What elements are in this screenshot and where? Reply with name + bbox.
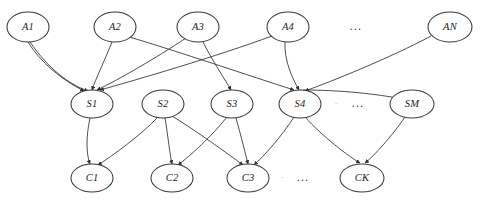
node-ck[interactable]: CK (340, 164, 384, 192)
node-label-an: AN (442, 21, 458, 32)
node-label-s2: S2 (158, 98, 169, 109)
edge-s2-to-c3 (172, 116, 243, 165)
node-s2[interactable]: S2 (142, 90, 184, 118)
edge-s1-to-c1 (87, 118, 90, 164)
edge-a2-to-s4 (126, 36, 294, 90)
edge-s2-to-c1 (98, 117, 158, 165)
node-label-a4: A4 (281, 21, 295, 32)
node-s4[interactable]: S4 (279, 90, 321, 118)
node-c2[interactable]: C2 (151, 164, 193, 192)
edge-s3-to-c3 (236, 118, 248, 164)
ellipsis-s-faint: · (335, 98, 338, 108)
node-c3[interactable]: C3 (227, 164, 269, 192)
node-s3[interactable]: S3 (211, 90, 253, 118)
node-c1[interactable]: C1 (71, 164, 113, 192)
edge-a4-to-s1 (100, 36, 272, 90)
diagram-canvas: A1A2A3A4ANS1S2S3S4SMC1C2C3CK ......·...· (0, 0, 480, 206)
node-label-c3: C3 (242, 172, 255, 183)
node-an[interactable]: AN (428, 12, 472, 42)
edge-s4-to-c3 (254, 117, 294, 165)
nodes-group: A1A2A3A4ANS1S2S3S4SMC1C2C3CK (7, 12, 472, 192)
node-sm[interactable]: SM (390, 90, 434, 118)
ellipsis-c-faint: · (281, 172, 284, 182)
edge-a4-to-s4 (285, 42, 299, 90)
edge-s2-to-c2 (165, 118, 172, 164)
node-label-a3: A3 (191, 21, 204, 32)
edge-s4-to-ck (305, 117, 360, 163)
node-a4[interactable]: A4 (267, 12, 309, 42)
node-label-a1: A1 (21, 21, 34, 32)
node-label-s4: S4 (295, 98, 306, 109)
node-label-s3: S3 (227, 98, 238, 109)
node-a3[interactable]: A3 (177, 12, 219, 42)
node-label-c1: C1 (86, 172, 99, 183)
ellipsis-s: ... (352, 96, 365, 110)
ellipsis-a: ... (350, 19, 363, 33)
edge-an-to-s4 (305, 36, 431, 91)
edge-a1-to-s1 (30, 42, 88, 91)
node-label-s1: S1 (87, 98, 98, 109)
ellipsis-c: ... (297, 170, 310, 184)
node-a2[interactable]: A2 (94, 12, 136, 42)
edge-a3-to-s3 (203, 42, 231, 90)
edge-a2-to-s1 (92, 42, 112, 90)
node-label-ck: CK (355, 172, 370, 183)
node-label-a2: A2 (108, 21, 122, 32)
node-a1[interactable]: A1 (7, 12, 49, 42)
edge-sm-to-ck (365, 117, 405, 163)
node-label-c2: C2 (166, 172, 179, 183)
graph-svg: A1A2A3A4ANS1S2S3S4SMC1C2C3CK ......·...· (0, 0, 480, 206)
node-s1[interactable]: S1 (71, 90, 113, 118)
node-label-sm: SM (405, 98, 420, 109)
edge-a1-to-s1 (28, 42, 84, 91)
